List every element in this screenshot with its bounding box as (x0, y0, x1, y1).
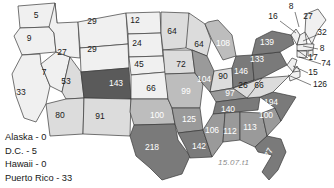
state-value-ks: 66 (146, 83, 156, 93)
state-value-ok: 100 (150, 110, 164, 120)
state-value-mo: 99 (181, 86, 191, 96)
state-value-ar: 125 (182, 114, 196, 124)
callout-value-ri: 8 (320, 43, 325, 53)
leader-line-nh (280, 21, 296, 33)
state-value-mt: 29 (87, 16, 97, 26)
state-value-ne: 45 (134, 59, 144, 69)
state-value-az: 80 (55, 110, 65, 120)
state-shape-or (14, 27, 56, 55)
state-value-nc: 194 (264, 97, 278, 107)
state-value-ga: 113 (243, 122, 257, 132)
state-value-la: 142 (192, 141, 206, 151)
state-shape-wi (186, 13, 211, 56)
state-value-il: 104 (197, 74, 211, 84)
state-value-ut: 53 (61, 76, 71, 86)
state-shape-ct (297, 51, 307, 58)
legend-item: Hawaii - 0 (5, 158, 72, 172)
state-value-sd: 24 (132, 38, 142, 48)
state-value-ca: 33 (16, 87, 26, 97)
callout-value-me: 27 (303, 11, 313, 21)
state-value-ny: 139 (260, 37, 274, 47)
state-value-va: 66 (254, 80, 264, 90)
state-value-nm: 91 (95, 111, 105, 121)
state-value-or: 9 (27, 33, 32, 43)
state-value-wy: 29 (87, 44, 97, 54)
state-value-wi: 64 (194, 39, 204, 49)
watermark: 15.07.t1 (218, 158, 249, 167)
callout-value-nj: 74 (321, 58, 331, 68)
callout-value-de: 15 (308, 67, 318, 77)
state-value-mn: 64 (167, 26, 177, 36)
state-value-al: 112 (223, 126, 237, 136)
state-value-sc: 100 (259, 110, 273, 120)
callout-value-vt: 8 (289, 1, 294, 11)
state-value-nd: 12 (130, 15, 140, 25)
state-value-nv: 7 (42, 67, 47, 77)
state-shape-co (81, 68, 131, 99)
leader-line-vt (295, 12, 299, 27)
state-value-tn: 140 (221, 104, 235, 114)
state-value-wv: 26 (238, 80, 248, 90)
state-value-wa: 5 (34, 10, 39, 20)
callout-value-ma: 32 (317, 27, 327, 37)
state-value-pa: 133 (250, 54, 264, 64)
callout-value-nh: 16 (268, 11, 278, 21)
legend-item: D.C. - 5 (5, 145, 72, 159)
state-value-ms: 106 (205, 125, 219, 135)
state-value-ky: 97 (225, 88, 235, 98)
callout-value-md: 126 (313, 79, 327, 89)
state-shape-mt (78, 13, 128, 48)
state-value-tx: 218 (145, 142, 159, 152)
state-value-mi: 108 (216, 38, 230, 48)
callout-value-ct: 17 (308, 52, 318, 62)
state-value-co: 143 (109, 78, 123, 88)
legend-list: Alaska - 0 D.C. - 5 Hawaii - 0 Puerto Ri… (5, 131, 72, 185)
state-value-ia: 72 (176, 59, 186, 69)
state-value-oh: 146 (234, 66, 248, 76)
legend-item: Puerto Rico - 33 (5, 172, 72, 186)
state-shape-nm (83, 98, 131, 136)
state-value-in: 90 (218, 71, 228, 81)
state-value-id: 27 (57, 47, 67, 57)
legend-item: Alaska - 0 (5, 131, 72, 145)
